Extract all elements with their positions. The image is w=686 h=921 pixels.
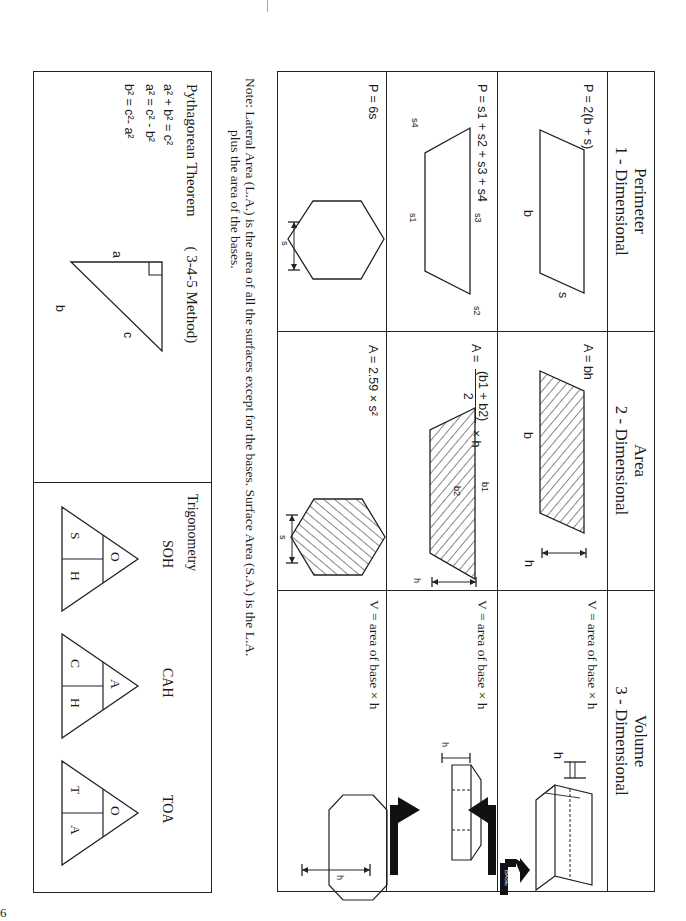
hatched-parallelogram-icon — [540, 376, 600, 546]
hexagonal-prism-icon — [282, 800, 382, 870]
cah-top: A — [107, 679, 123, 689]
side-dimension-icon — [285, 513, 300, 568]
label-s1: s1 — [408, 213, 418, 223]
header-title: Volume — [631, 590, 650, 892]
label-h: h — [440, 742, 450, 747]
header-area: Area 2 - Dimensional — [612, 331, 650, 590]
label-a: a — [110, 251, 124, 258]
note-line-2: plus the area of the bases. — [228, 78, 243, 656]
note-line-1: Note: Lateral Area (L.A.) is the area of… — [243, 78, 258, 656]
pythagorean-title-text: Pythagorean Theorem — [184, 84, 200, 217]
pythagorean-formula-3: b² = c²- a² — [122, 84, 136, 139]
slanted-prism-icon — [500, 660, 600, 895]
binding-mark — [267, 0, 268, 12]
soh-bottom-left: S — [67, 532, 83, 540]
pythagorean-title: Pythagorean Theorem( 3-4-5 Method) — [183, 84, 200, 343]
label-s: s — [556, 292, 570, 298]
right-triangle-icon — [70, 260, 170, 360]
label-b: b — [53, 305, 67, 312]
pythagorean-formula-1: a² + b² = c² — [157, 84, 178, 145]
parallelogram-icon — [540, 130, 600, 300]
header-volume: Volume 3 - Dimensional — [612, 590, 650, 892]
trapezoid-icon — [425, 130, 480, 305]
header-subtitle: 2 - Dimensional — [612, 331, 631, 590]
label-h: h — [412, 578, 422, 583]
lateral-area-note: Note: Lateral Area (L.A.) is the area of… — [228, 78, 258, 656]
pythagorean-method: ( 3-4-5 Method) — [184, 247, 200, 344]
label-s: s — [278, 535, 288, 540]
trig-label-cah: CAH — [159, 668, 175, 698]
hexagon-icon — [300, 195, 385, 300]
trigonometry-title: Trigonometry — [184, 494, 200, 571]
formula-perimeter-hexagon: P = 6s — [366, 84, 380, 120]
trig-label-toa: TOA — [159, 795, 175, 824]
toa-bottom-right: A — [67, 825, 83, 835]
cah-bottom-right: H — [67, 698, 83, 708]
label-s: s — [280, 241, 290, 246]
box-divider — [33, 482, 212, 483]
formula-prefix: A = — [469, 344, 483, 362]
label-b: b — [521, 210, 535, 217]
formula-area-hexagon: A = 2.59 × s² — [366, 345, 380, 416]
label-b: b — [521, 432, 535, 439]
toa-top: O — [107, 806, 123, 816]
soh-top: O — [107, 552, 123, 562]
soh-triangle-icon — [60, 505, 140, 615]
side-dimension-icon — [287, 220, 302, 275]
height-dimension-icon — [430, 576, 480, 588]
formula-volume-hexagonal-prism: V = area of base × h — [366, 600, 382, 709]
label-h: h — [522, 560, 536, 567]
pythagorean-formula-2: a² = c² - b² — [143, 84, 157, 142]
header-perimeter: Perimeter 1 - Dimensional — [612, 71, 650, 331]
column-divider — [277, 331, 655, 332]
label-s2: s2 — [472, 306, 482, 316]
height-dimension-icon — [540, 547, 590, 559]
header-subtitle: 1 - Dimensional — [612, 71, 631, 331]
toa-triangle-icon — [60, 759, 140, 869]
trig-label-soh: SOH — [159, 540, 175, 568]
row-divider — [497, 71, 498, 892]
height-dimension-icon — [440, 752, 480, 764]
header-title: Area — [631, 331, 650, 590]
base-label: BASE — [504, 870, 510, 886]
formula-volume-trapezoidal-prism: V = area of base × h — [474, 600, 490, 709]
label-s4: s4 — [410, 118, 420, 128]
header-divider — [607, 71, 608, 892]
trapezoidal-prism-icon — [390, 745, 490, 890]
hatched-hexagon-icon — [298, 488, 383, 588]
label-b1: b1 — [480, 482, 490, 492]
column-divider — [277, 590, 655, 591]
formula-text: a² + b² = c² — [161, 84, 175, 145]
cah-triangle-icon — [60, 632, 140, 742]
label-h: h — [551, 752, 565, 759]
page-number: 6 — [0, 905, 7, 921]
header-subtitle: 3 - Dimensional — [612, 590, 631, 892]
soh-bottom-right: H — [67, 571, 83, 581]
toa-bottom-left: T — [67, 786, 83, 794]
label-h: h — [335, 875, 345, 880]
pythagorean-formulas: a² + b² = c² — [157, 84, 178, 145]
row-divider — [386, 71, 387, 892]
cah-bottom-left: C — [67, 659, 83, 668]
label-c: c — [121, 332, 135, 338]
formula-area-parallelogram: A = bh — [581, 344, 595, 380]
header-title: Perimeter — [631, 71, 650, 331]
label-b2: b2 — [452, 486, 462, 496]
label-s3: s3 — [473, 213, 483, 223]
